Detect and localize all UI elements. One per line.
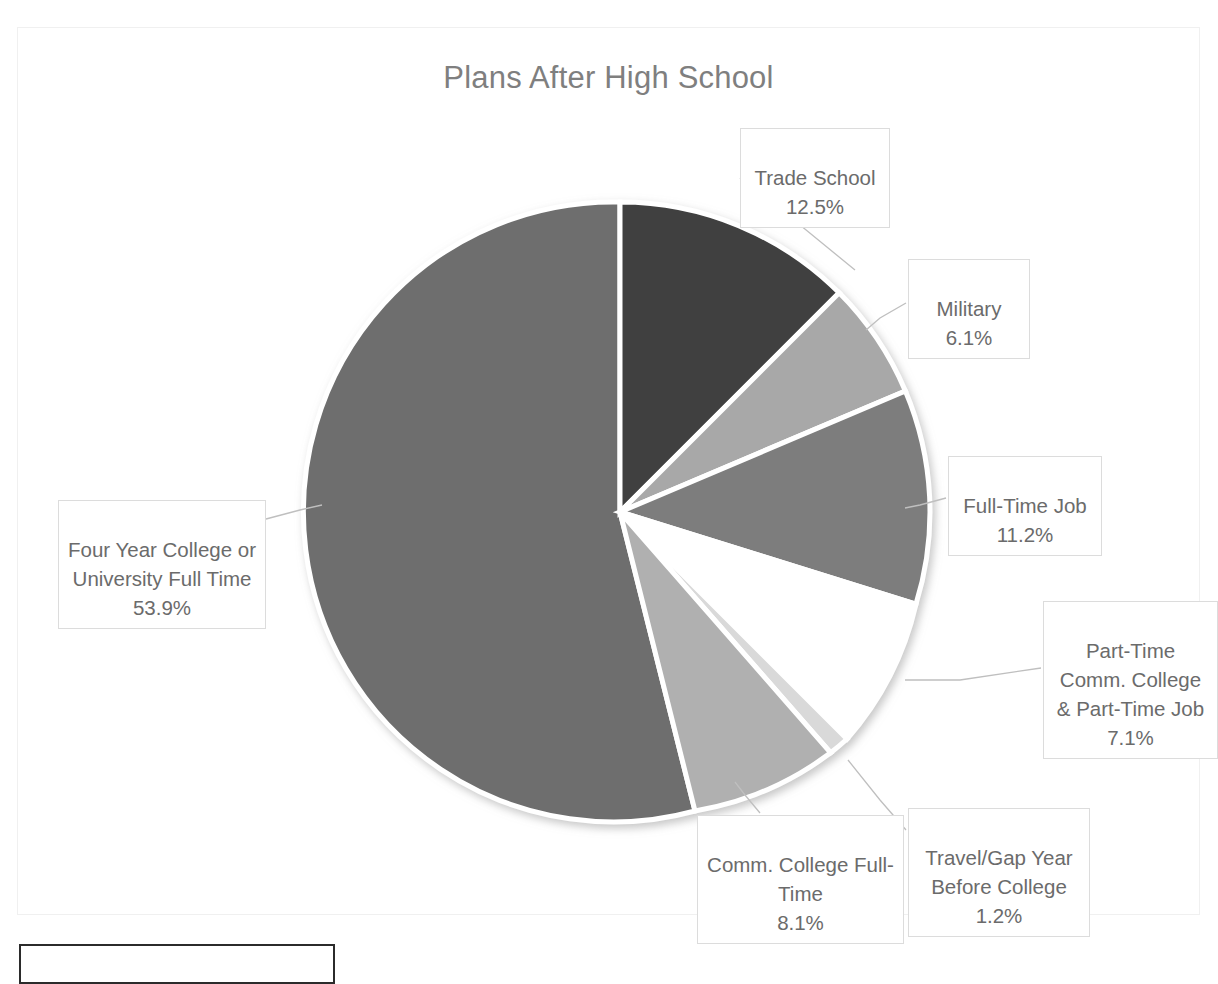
callout-comm-college-full-time-text: Comm. College Full-Time 8.1%	[707, 853, 894, 934]
callout-four-year-college[interactable]: Four Year College or University Full Tim…	[58, 500, 266, 629]
callout-part-time-comm-college[interactable]: Part-Time Comm. College & Part-Time Job …	[1043, 601, 1218, 759]
callout-trade-school[interactable]: Trade School 12.5%	[740, 128, 890, 228]
callout-part-time-comm-college-text: Part-Time Comm. College & Part-Time Job …	[1057, 639, 1204, 749]
callout-full-time-job-text: Full-Time Job 11.2%	[963, 494, 1086, 546]
callout-four-year-college-text: Four Year College or University Full Tim…	[68, 538, 256, 619]
callout-military[interactable]: Military 6.1%	[908, 259, 1030, 359]
callout-military-text: Military 6.1%	[937, 297, 1002, 349]
callout-comm-college-full-time[interactable]: Comm. College Full-Time 8.1%	[697, 815, 904, 944]
empty-bordered-box[interactable]	[19, 944, 335, 984]
chart-title: Plans After High School	[18, 60, 1199, 96]
callout-travel-gap-year-text: Travel/Gap Year Before College 1.2%	[925, 846, 1072, 927]
callout-full-time-job[interactable]: Full-Time Job 11.2%	[948, 456, 1102, 556]
callout-travel-gap-year[interactable]: Travel/Gap Year Before College 1.2%	[908, 808, 1090, 937]
callout-trade-school-text: Trade School 12.5%	[754, 166, 875, 218]
